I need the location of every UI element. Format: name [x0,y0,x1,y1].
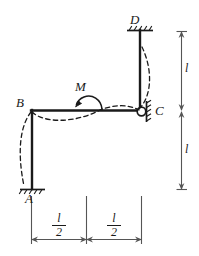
structural-frame-figure: B A D C M l l l 2 l 2 [0,0,199,256]
frame-members [31,30,141,189]
dim-label-upper-l: l [185,62,188,74]
node-label-D: D [130,13,139,26]
dim-label-lower-l: l [185,143,188,155]
dim-left-denominator: 2 [52,226,66,239]
applied-moment-arrow [76,96,102,109]
vertical-dimensions [177,31,188,190]
dim-right-numerator: l [107,212,121,226]
horizontal-dimensions [31,196,142,244]
node-label-C: C [155,104,164,117]
node-label-B: B [16,96,24,109]
dim-label-right-half-span: l 2 [107,212,121,238]
dim-left-numerator: l [52,212,66,226]
deflection-column-AB [20,112,31,186]
dim-label-left-half-span: l 2 [52,212,66,238]
node-label-A: A [25,192,33,205]
support-C-pin-circle [137,107,146,116]
dim-right-denominator: 2 [107,226,121,239]
moment-label-M: M [75,80,86,93]
deflected-shape [20,47,149,186]
frame-drawing [0,0,199,256]
deflection-beam-BC [32,106,139,121]
